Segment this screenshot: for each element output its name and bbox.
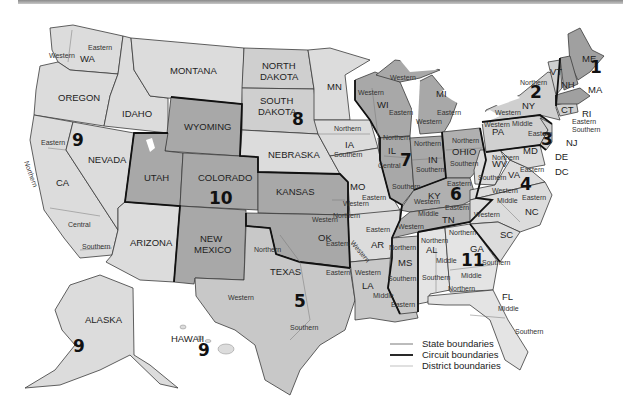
svg-text:Middle: Middle <box>436 257 457 264</box>
label-al: AL <box>426 244 438 255</box>
label-la: LA <box>362 280 374 291</box>
label-ma: MA <box>588 84 603 95</box>
label-ia: IA <box>345 139 355 150</box>
svg-text:Southern: Southern <box>572 126 601 133</box>
svg-text:Southern: Southern <box>82 243 111 250</box>
svg-text:Western: Western <box>495 109 521 116</box>
svg-text:Western: Western <box>398 223 424 230</box>
us-circuit-map: WA OREGON IDAHO MONTANA CA NEVADA ARIZON… <box>0 0 623 408</box>
svg-text:Southern: Southern <box>422 274 451 281</box>
svg-text:Eastern: Eastern <box>389 109 413 116</box>
svg-text:Eastern: Eastern <box>447 180 471 187</box>
label-ohio: OHIO <box>452 146 476 157</box>
label-montana: MONTANA <box>170 65 217 76</box>
svg-text:Eastern: Eastern <box>437 109 461 116</box>
circuit-8: 8 <box>292 109 304 129</box>
circuit-10: 10 <box>209 188 233 208</box>
svg-text:Middle: Middle <box>418 210 439 217</box>
label-nj: NJ <box>566 137 578 148</box>
legend-circuit-label: Circuit boundaries <box>422 349 499 360</box>
svg-text:Western: Western <box>358 89 384 96</box>
legend: State boundaries Circuit boundaries Dist… <box>390 338 501 371</box>
label-mn: MN <box>327 81 342 92</box>
label-in: IN <box>428 154 438 165</box>
svg-text:Western: Western <box>390 74 416 81</box>
label-nh: NH <box>561 79 575 90</box>
label-utah: UTAH <box>144 172 169 183</box>
circuit-6: 6 <box>450 184 462 204</box>
label-kansas: KANSAS <box>276 186 315 197</box>
svg-text:Eastern: Eastern <box>522 194 546 201</box>
legend-state-label: State boundaries <box>422 338 494 349</box>
svg-text:Middle: Middle <box>497 197 518 204</box>
label-texas: TEXAS <box>270 266 301 277</box>
svg-text:Southern: Southern <box>334 151 363 158</box>
label-nc: NC <box>525 206 539 217</box>
label-new-mexico-1: NEW <box>200 233 222 244</box>
svg-text:Western: Western <box>49 52 75 59</box>
svg-text:Western: Western <box>228 294 254 301</box>
svg-text:Eastern: Eastern <box>326 240 350 247</box>
svg-text:Northern: Northern <box>334 125 361 132</box>
svg-text:Southern: Southern <box>482 259 511 266</box>
label-wi: WI <box>377 99 389 110</box>
svg-text:Middle: Middle <box>373 292 394 299</box>
svg-text:Eastern: Eastern <box>528 130 552 137</box>
label-fl: FL <box>502 291 513 302</box>
label-north-dakota-1: NORTH <box>262 60 296 71</box>
label-wa: WA <box>80 53 96 64</box>
svg-text:Central: Central <box>68 221 91 228</box>
svg-text:Western: Western <box>492 187 518 194</box>
label-ct: CT <box>561 104 574 115</box>
label-idaho: IDAHO <box>122 108 152 119</box>
svg-text:Northern: Northern <box>383 134 410 141</box>
circuit-9-alaska: 9 <box>73 336 85 356</box>
label-ms: MS <box>398 257 412 268</box>
label-il: IL <box>388 145 396 156</box>
label-arizona: ARIZONA <box>130 237 173 248</box>
svg-text:Southern: Southern <box>515 328 544 335</box>
svg-text:Southern: Southern <box>290 324 319 331</box>
label-tn: TN <box>442 214 455 225</box>
svg-text:Eastern: Eastern <box>41 139 65 146</box>
label-wyoming: WYOMING <box>184 121 232 132</box>
label-mi: MI <box>436 88 447 99</box>
svg-text:Northern: Northern <box>254 246 281 253</box>
svg-text:Western: Western <box>414 198 440 205</box>
svg-text:Eastern: Eastern <box>326 269 350 276</box>
svg-text:Western: Western <box>355 269 381 276</box>
circuit-9-west: 9 <box>72 130 84 150</box>
legend-district-label: District boundaries <box>422 360 501 371</box>
svg-text:Northern: Northern <box>414 140 441 147</box>
circuit-1: 1 <box>590 57 602 77</box>
svg-text:Western: Western <box>484 121 510 128</box>
circuit-4: 4 <box>520 174 532 194</box>
svg-text:Eastern: Eastern <box>366 226 390 233</box>
state-mi <box>416 75 458 134</box>
svg-text:Southern: Southern <box>416 166 445 173</box>
label-mo: MO <box>350 181 365 192</box>
label-oregon: OREGON <box>58 92 100 103</box>
svg-text:Eastern: Eastern <box>391 301 415 308</box>
svg-text:Northern: Northern <box>389 244 416 251</box>
svg-text:Northern: Northern <box>333 212 360 219</box>
svg-text:Western: Western <box>416 118 442 125</box>
svg-text:Eastern: Eastern <box>88 44 112 51</box>
svg-text:Middle: Middle <box>461 272 482 279</box>
svg-text:Southern: Southern <box>392 183 421 190</box>
label-sc: SC <box>500 229 513 240</box>
label-south-dakota-1: SOUTH <box>260 95 293 106</box>
state-hawaii-island <box>218 344 234 354</box>
svg-text:Eastern: Eastern <box>520 166 544 173</box>
circuit-9-hawaii: 9 <box>198 340 210 360</box>
state-alaska <box>25 275 178 388</box>
svg-text:Middle: Middle <box>498 305 519 312</box>
label-vt: VT <box>550 66 562 77</box>
svg-text:Eastern: Eastern <box>445 204 469 211</box>
svg-text:Central: Central <box>378 162 401 169</box>
svg-text:Northern: Northern <box>448 285 475 292</box>
label-ar: AR <box>371 239 384 250</box>
label-north-dakota-2: DAKOTA <box>260 71 299 82</box>
circuit-7: 7 <box>400 150 412 170</box>
svg-text:Northern: Northern <box>449 229 476 236</box>
